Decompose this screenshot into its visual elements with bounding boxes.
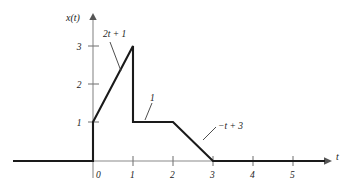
decay-expression-label: −t + 3	[218, 121, 243, 131]
x-tick-label-4: 4	[250, 170, 255, 180]
x-axis-arrow-icon	[324, 157, 332, 164]
y-tick-label-1: 1	[77, 118, 82, 128]
plot-canvas: x(t) t 0 1 2 3 4 5 1 2 3 2t + 1 1 −t + 3	[0, 0, 349, 194]
x-tick-label-1: 1	[130, 170, 135, 180]
y-tick-label-3: 3	[76, 42, 82, 52]
ramp-label-leader	[110, 42, 121, 71]
constant-label-leader	[145, 103, 152, 120]
y-axis-arrow-icon	[89, 13, 96, 20]
decay-label-leader	[203, 127, 216, 140]
ramp-expression-label: 2t + 1	[103, 29, 126, 39]
x-tick-label-3: 3	[209, 170, 215, 180]
signal-plot-figure: x(t) t 0 1 2 3 4 5 1 2 3 2t + 1 1 −t + 3	[0, 0, 349, 194]
y-tick-label-2: 2	[77, 80, 82, 90]
x-axis-label: t	[336, 151, 339, 162]
constant-expression-label: 1	[150, 93, 155, 103]
signal-waveform	[13, 46, 325, 161]
x-tick-label-5: 5	[290, 170, 295, 180]
y-axis-label: x(t)	[65, 12, 81, 24]
x-tick-label-0: 0	[96, 170, 101, 180]
x-tick-label-2: 2	[170, 170, 175, 180]
